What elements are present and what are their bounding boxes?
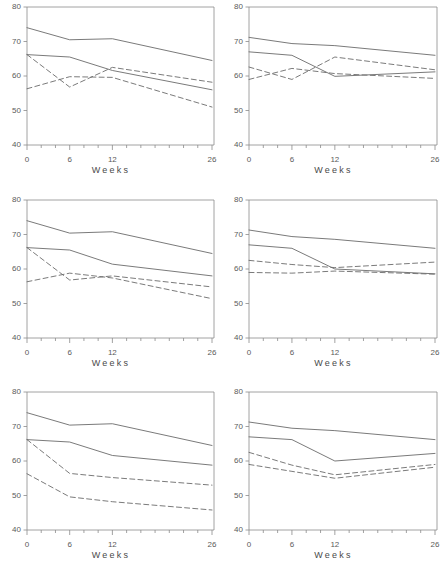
y-tick-label: 70 bbox=[2, 230, 21, 239]
y-tick-label: 50 bbox=[2, 299, 21, 308]
y-tick-label: 70 bbox=[224, 230, 243, 239]
y-tick-label: 60 bbox=[2, 71, 21, 80]
y-tick-label: 50 bbox=[224, 491, 243, 500]
x-axis-title: Weeks bbox=[222, 358, 445, 368]
x-axis-title: Weeks bbox=[0, 165, 222, 175]
x-tick-label: 12 bbox=[98, 540, 126, 549]
y-tick-label: 40 bbox=[2, 140, 21, 149]
y-tick-label: 80 bbox=[2, 2, 21, 11]
series-line-2 bbox=[249, 245, 435, 274]
x-tick-label: 0 bbox=[13, 540, 41, 549]
series-line-3 bbox=[27, 55, 212, 87]
x-tick-label: 12 bbox=[98, 155, 126, 164]
y-tick-label: 60 bbox=[224, 264, 243, 273]
chart-panel-5: 4050607080061226Weeks bbox=[0, 380, 222, 576]
y-tick-label: 40 bbox=[2, 333, 21, 342]
y-tick-label: 80 bbox=[224, 387, 243, 396]
series-line-1 bbox=[249, 230, 435, 248]
y-tick-label: 70 bbox=[2, 37, 21, 46]
series-line-1 bbox=[249, 422, 435, 440]
x-tick-label: 6 bbox=[278, 540, 306, 549]
chart-panel-3: 4050607080061226Weeks bbox=[0, 190, 222, 380]
x-tick-label: 26 bbox=[421, 540, 445, 549]
x-tick-label: 0 bbox=[235, 155, 263, 164]
x-tick-label: 6 bbox=[278, 155, 306, 164]
chart-grid: 4050607080061226Weeks4050607080061226Wee… bbox=[0, 0, 445, 576]
x-tick-label: 0 bbox=[235, 348, 263, 357]
y-tick-label: 50 bbox=[224, 299, 243, 308]
y-tick-label: 50 bbox=[224, 106, 243, 115]
series-line-2 bbox=[27, 248, 212, 276]
x-tick-label: 12 bbox=[98, 348, 126, 357]
series-line-1 bbox=[249, 37, 435, 55]
y-tick-label: 60 bbox=[2, 264, 21, 273]
series-line-2 bbox=[249, 437, 435, 461]
x-tick-label: 6 bbox=[56, 540, 84, 549]
x-tick-label: 12 bbox=[321, 348, 349, 357]
x-tick-label: 12 bbox=[321, 540, 349, 549]
series-line-1 bbox=[27, 413, 212, 446]
y-tick-label: 70 bbox=[2, 422, 21, 431]
x-tick-label: 6 bbox=[278, 348, 306, 357]
y-tick-label: 80 bbox=[224, 2, 243, 11]
plot-frame bbox=[27, 392, 214, 530]
x-axis-title: Weeks bbox=[0, 358, 222, 368]
x-tick-label: 0 bbox=[13, 348, 41, 357]
y-tick-label: 80 bbox=[2, 195, 21, 204]
y-tick-label: 70 bbox=[224, 422, 243, 431]
chart-panel-6: 4050607080061226Weeks bbox=[222, 380, 445, 576]
x-axis-title: Weeks bbox=[222, 165, 445, 175]
y-tick-label: 40 bbox=[224, 140, 243, 149]
y-tick-label: 40 bbox=[224, 525, 243, 534]
chart-panel-4: 4050607080061226Weeks bbox=[222, 190, 445, 380]
series-line-2 bbox=[27, 55, 212, 90]
series-line-1 bbox=[27, 28, 212, 61]
chart-panel-1: 4050607080061226Weeks bbox=[0, 0, 222, 190]
series-line-3 bbox=[249, 260, 435, 267]
y-tick-label: 80 bbox=[224, 195, 243, 204]
y-tick-label: 60 bbox=[224, 456, 243, 465]
series-line-4 bbox=[27, 474, 212, 510]
chart-panel-2: 4050607080061226Weeks bbox=[222, 0, 445, 190]
x-tick-label: 26 bbox=[421, 155, 445, 164]
y-tick-label: 50 bbox=[2, 491, 21, 500]
y-tick-label: 60 bbox=[224, 71, 243, 80]
series-line-3 bbox=[27, 248, 212, 287]
x-tick-label: 6 bbox=[56, 155, 84, 164]
x-tick-label: 6 bbox=[56, 348, 84, 357]
x-tick-label: 12 bbox=[321, 155, 349, 164]
series-line-4 bbox=[27, 77, 212, 107]
y-tick-label: 40 bbox=[224, 333, 243, 342]
y-tick-label: 70 bbox=[224, 37, 243, 46]
x-axis-title: Weeks bbox=[222, 550, 445, 560]
series-line-4 bbox=[249, 464, 435, 478]
x-axis-title: Weeks bbox=[0, 550, 222, 560]
y-tick-label: 40 bbox=[2, 525, 21, 534]
series-line-1 bbox=[27, 221, 212, 254]
x-tick-label: 0 bbox=[13, 155, 41, 164]
y-tick-label: 60 bbox=[2, 456, 21, 465]
x-tick-label: 26 bbox=[421, 348, 445, 357]
x-tick-label: 0 bbox=[235, 540, 263, 549]
y-tick-label: 80 bbox=[2, 387, 21, 396]
y-tick-label: 50 bbox=[2, 106, 21, 115]
series-line-4 bbox=[249, 68, 435, 79]
